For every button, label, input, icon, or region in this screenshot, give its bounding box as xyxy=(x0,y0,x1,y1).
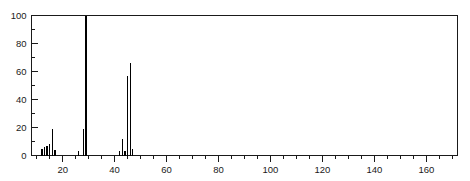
y-axis-tick-label: 40 xyxy=(16,94,27,105)
y-axis-tick-label: 80 xyxy=(16,38,27,49)
x-axis-tick-label: 100 xyxy=(263,164,279,175)
y-axis-tick-label: 60 xyxy=(16,66,27,77)
x-axis-tick-label: 140 xyxy=(366,164,382,175)
y-axis-tick-label: 0 xyxy=(21,150,26,161)
x-axis-tick-label: 20 xyxy=(57,164,68,175)
x-axis-tick-label: 60 xyxy=(161,164,172,175)
plot-frame xyxy=(32,16,458,156)
mass-spectrum-plot: 02040608010020406080100120140160 xyxy=(0,0,470,181)
y-axis-tick-label: 100 xyxy=(11,10,27,21)
x-axis-tick-label: 80 xyxy=(213,164,224,175)
spectrum-canvas: 02040608010020406080100120140160 xyxy=(0,0,470,181)
y-axis-tick-label: 20 xyxy=(16,122,27,133)
x-axis-tick-label: 120 xyxy=(314,164,330,175)
x-axis-tick-label: 40 xyxy=(109,164,120,175)
x-axis-tick-label: 160 xyxy=(418,164,434,175)
